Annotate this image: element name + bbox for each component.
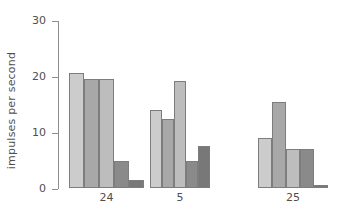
bar (129, 180, 144, 188)
bar (150, 110, 162, 188)
x-axis-group-label-25: 25 (273, 192, 313, 204)
bar (162, 119, 174, 188)
bar-group-24 (69, 21, 144, 188)
bar (186, 161, 198, 188)
bar (272, 102, 286, 188)
plot-area: 24525 (0, 0, 364, 221)
bar (114, 161, 129, 188)
bar (69, 73, 84, 188)
bar (258, 138, 272, 188)
bar-group-25 (258, 21, 328, 188)
x-axis-group-label-5: 5 (160, 192, 200, 204)
x-axis-group-label-24: 24 (87, 192, 127, 204)
bar (84, 79, 99, 188)
bar (286, 149, 300, 188)
bar-chart-figure: impulses per second 0102030 24525 (0, 0, 364, 221)
bar (99, 79, 114, 188)
bar (300, 149, 314, 188)
bar (314, 185, 328, 188)
bar-group-5 (150, 21, 210, 188)
bar (174, 81, 186, 188)
bar (198, 146, 210, 188)
